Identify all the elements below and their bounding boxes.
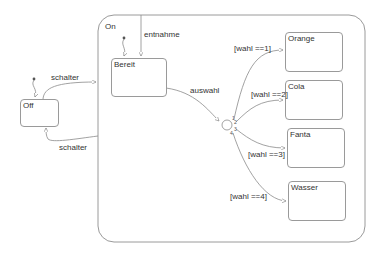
default-transition-bereit: [123, 37, 126, 56]
transition-schalter-off-on: [43, 82, 96, 99]
order-4: 4: [230, 130, 233, 136]
label-wahl-2: [wahl ==2]: [251, 90, 288, 100]
label-wahl-1: [wahl ==1]: [234, 44, 271, 54]
state-cola[interactable]: Cola: [285, 80, 343, 120]
label-wahl-3: [wahl ==3]: [248, 150, 285, 160]
junction: [222, 120, 232, 130]
transition-schalter-on-off: [46, 128, 98, 141]
label-auswahl: auswahl: [190, 86, 219, 96]
label-schalter-on-off: schalter: [59, 143, 87, 153]
label-entnahme: entnahme: [144, 30, 180, 40]
state-fanta[interactable]: Fanta: [287, 128, 345, 168]
order-3: 3: [234, 126, 237, 132]
transition-fanta: [236, 129, 285, 148]
order-2: 2: [234, 119, 237, 125]
state-wasser-name: Wasser: [291, 183, 318, 193]
state-fanta-name: Fanta: [290, 130, 310, 140]
state-orange[interactable]: Orange: [285, 32, 343, 72]
transition-cola: [236, 100, 283, 122]
state-cola-name: Cola: [288, 82, 304, 92]
transition-orange: [234, 50, 283, 119]
state-off[interactable]: Off: [20, 99, 59, 127]
label-schalter-off-on: schalter: [51, 73, 79, 83]
state-bereit[interactable]: Bereit: [111, 58, 167, 97]
label-wahl-4: [wahl ==4]: [230, 192, 267, 202]
default-transition-off: [33, 78, 36, 97]
superstate-on-label: On: [105, 22, 116, 32]
state-orange-name: Orange: [288, 34, 315, 44]
state-wasser[interactable]: Wasser: [288, 181, 346, 221]
state-off-name: Off: [23, 101, 34, 111]
state-bereit-name: Bereit: [114, 60, 135, 70]
